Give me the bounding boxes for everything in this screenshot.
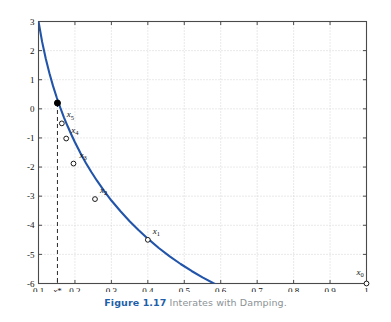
x-tick-label: 0.5: [179, 286, 191, 292]
x-tick-label: 0.2: [69, 286, 80, 292]
x-tick-label: 0.7: [252, 286, 264, 292]
y-tick-label: 3: [30, 17, 35, 27]
x-tick-label: 0.9: [324, 286, 336, 292]
iterate-label: x3: [78, 150, 86, 161]
y-tick-label: -1: [27, 133, 35, 143]
caption-label: Figure 1.17: [104, 297, 166, 308]
iterates-with-damping-chart: 0.10.20.30.40.50.60.70.80.913210-1-2-3-4…: [0, 0, 391, 292]
y-tick-label: -4: [27, 220, 35, 230]
function-curve: [39, 22, 367, 293]
y-tick-label: -3: [27, 191, 35, 201]
tick-labels: 0.10.20.30.40.50.60.70.80.913210-1-2-3-4…: [27, 17, 369, 292]
iterate-marker: [71, 161, 76, 166]
root-point-marker: [54, 100, 60, 106]
iterate-label: x0: [356, 267, 364, 278]
caption-text: Interates with Damping.: [170, 297, 287, 308]
x-tick-label: 0.6: [215, 286, 227, 292]
figure-container: 0.10.20.30.40.50.60.70.80.913210-1-2-3-4…: [0, 0, 391, 322]
y-tick-label: -6: [27, 279, 35, 289]
x-root-tick-label: x*: [52, 286, 62, 293]
y-tick-label: -2: [27, 162, 35, 172]
iterate-label: x1: [152, 226, 160, 237]
iterate-labels: x0x1x2x3x4x5: [66, 109, 364, 277]
curve-path: [39, 22, 367, 293]
x-tick-label: 1: [364, 286, 369, 292]
y-tick-label: -5: [27, 250, 35, 260]
y-tick-label: 2: [30, 46, 35, 56]
iterate-marker: [59, 121, 64, 126]
axis-frame: [39, 22, 367, 284]
x-tick-label: 0.3: [106, 286, 118, 292]
x-tick-label: 0.1: [33, 286, 44, 292]
iterate-marker: [145, 237, 150, 242]
gridlines: [39, 22, 367, 284]
plot-frame: [39, 22, 367, 284]
y-tick-label: 0: [30, 104, 35, 114]
y-tick-label: 1: [30, 75, 35, 85]
iterate-label: x2: [99, 185, 107, 196]
plot-area: 0.10.20.30.40.50.60.70.80.913210-1-2-3-4…: [0, 0, 391, 292]
axis-ticks: [39, 22, 367, 284]
iterate-label: x5: [66, 109, 74, 120]
iterate-label: x4: [70, 125, 79, 136]
figure-caption: Figure 1.17 Interates with Damping.: [0, 296, 391, 310]
x-tick-label: 0.4: [142, 286, 154, 292]
iterate-marker: [93, 197, 98, 202]
x-tick-label: 0.8: [288, 286, 300, 292]
iterate-marker: [64, 136, 69, 141]
